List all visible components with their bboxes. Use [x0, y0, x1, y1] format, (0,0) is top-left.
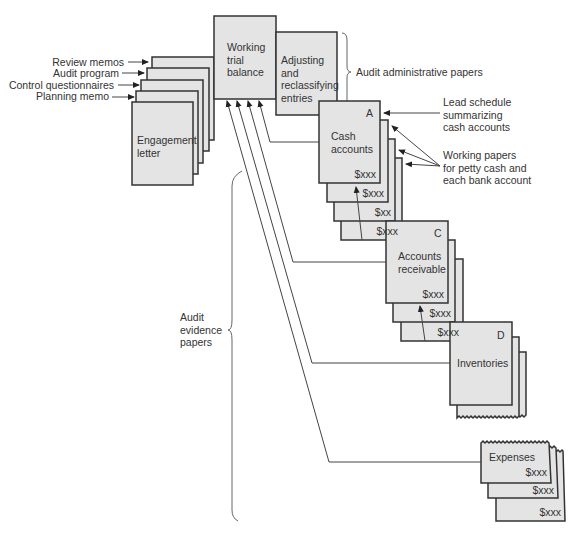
cash-amount: $xxx — [362, 225, 398, 238]
expenses-amount: $xxx — [511, 466, 547, 479]
expenses-amount: $xxx — [525, 506, 561, 519]
expenses-amount: $xxx — [518, 484, 554, 497]
expenses-title: Expenses — [489, 451, 535, 464]
working-papers-note: Working papers for petty cash and each b… — [443, 149, 531, 187]
inventories-ref: D — [497, 329, 505, 342]
cash-title: Cash accounts — [331, 130, 373, 155]
engagement-letter-label: Engagement letter — [137, 134, 197, 159]
receivables-amount: $xxx — [423, 326, 459, 339]
cash-ref: A — [366, 107, 373, 120]
cash-amount: $xxx — [348, 187, 384, 200]
receivables-amount: $xxx — [415, 307, 451, 320]
receivables-amount: $xxx — [408, 288, 444, 301]
cash-amount: $xxx — [340, 168, 376, 181]
adjusting-entries-label: Adjusting and reclassifying entries — [281, 54, 339, 104]
audit-program-label: Audit program — [20, 67, 119, 80]
working-trial-balance-label: Working trial balance — [227, 41, 265, 79]
receivables-ref: C — [434, 227, 442, 240]
planning-memo-label: Planning memo — [10, 90, 109, 103]
inventories-title: Inventories — [457, 357, 508, 370]
evidence-brace — [228, 171, 242, 521]
lead-schedule-note: Lead schedule summarizing cash accounts — [443, 96, 511, 134]
admin-papers-label: Audit administrative papers — [356, 66, 483, 79]
audit-evidence-label: Audit evidence papers — [180, 311, 222, 349]
inventories-stack — [450, 322, 526, 418]
receivables-title: Accounts receivable — [398, 250, 446, 275]
cash-amount: $xx — [355, 206, 391, 219]
